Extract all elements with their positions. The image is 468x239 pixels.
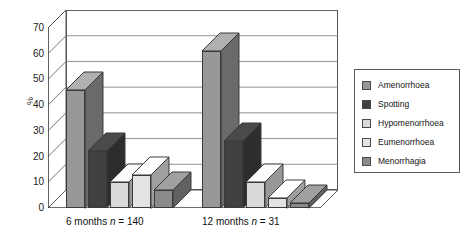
bar-eumenorrhoea-group-2 xyxy=(268,180,287,208)
edge-mark-4: · xyxy=(452,210,466,219)
bar-menorrhagia-group-1 xyxy=(154,172,173,208)
y-axis-tick-30: 30 xyxy=(18,126,44,136)
y-axis-tick-70: 70 xyxy=(18,23,44,33)
y-axis-tick-20: 20 xyxy=(18,152,44,162)
x-tick-n-value: 140 xyxy=(127,216,144,227)
bar-spotting-group-2 xyxy=(224,123,243,208)
y-axis-tick-60: 60 xyxy=(18,49,44,59)
legend-item-menorrhagia[interactable]: Menorrhagia xyxy=(362,152,454,170)
legend-item-label: Spotting xyxy=(378,99,409,109)
x-axis-tick-1: 6 months n = 140 xyxy=(66,216,144,227)
page-edge-marginalia: ···· xyxy=(452,183,466,235)
edge-mark-3: · xyxy=(452,201,466,210)
legend-swatch-icon xyxy=(362,157,371,166)
legend-item-label: Eumenorrhoea xyxy=(378,137,434,147)
chart-legend: AmenorrhoeaSpottingHypomenorrhoeaEumenor… xyxy=(354,69,460,173)
bar-amenorrhoea-group-2 xyxy=(202,33,221,208)
bar-3d-cap xyxy=(290,185,327,208)
legend-swatch-icon xyxy=(362,100,371,109)
edge-mark-2: · xyxy=(452,192,466,201)
y-axis-tick-50: 50 xyxy=(18,74,44,84)
legend-item-hypomenorrhoea[interactable]: Hypomenorrhoea xyxy=(362,114,454,132)
chart-figure: % 010203040506070 6 months n = 14012 mon… xyxy=(0,0,468,239)
bar-menorrhagia-group-2 xyxy=(290,185,309,208)
bar-amenorrhoea-group-1 xyxy=(66,72,85,208)
legend-swatch-icon xyxy=(362,81,371,90)
legend-item-label: Menorrhagia xyxy=(378,156,426,166)
y-axis-tick-10: 10 xyxy=(18,177,44,187)
legend-item-eumenorrhoea[interactable]: Eumenorrhoea xyxy=(362,133,454,151)
x-tick-period: 6 months xyxy=(66,216,107,227)
bar-hypomenorrhoea-group-2 xyxy=(246,164,265,208)
y-axis-tick-0: 0 xyxy=(18,203,44,213)
edge-mark-1: · xyxy=(452,183,466,192)
x-tick-n-value: 31 xyxy=(268,216,279,227)
y-axis-tick-40: 40 xyxy=(18,100,44,110)
bar-spotting-group-1 xyxy=(88,133,107,208)
x-tick-period: 12 months xyxy=(202,216,249,227)
legend-item-spotting[interactable]: Spotting xyxy=(362,95,454,113)
legend-swatch-icon xyxy=(362,138,371,147)
bar-eumenorrhoea-group-1 xyxy=(132,157,151,208)
plot-area: 6 months n = 14012 months n = 31 xyxy=(48,10,338,208)
x-tick-n-symbol: n xyxy=(110,216,116,227)
bar-hypomenorrhoea-group-1 xyxy=(110,164,129,208)
bar-3d-cap xyxy=(154,172,191,208)
legend-item-label: Hypomenorrhoea xyxy=(378,118,444,128)
legend-item-label: Amenorrhoea xyxy=(378,80,430,90)
legend-swatch-icon xyxy=(362,119,371,128)
legend-item-amenorrhoea[interactable]: Amenorrhoea xyxy=(362,76,454,94)
x-axis-tick-2: 12 months n = 31 xyxy=(202,216,280,227)
x-tick-n-symbol: n xyxy=(251,216,257,227)
